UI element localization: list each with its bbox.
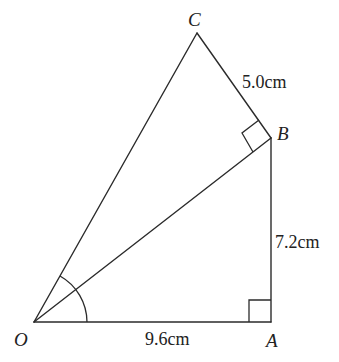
length-label-oa: 9.6cm [145, 329, 190, 349]
segment-oc [34, 33, 197, 322]
geometry-diagram: C B O A 5.0cm 7.2cm 9.6cm [0, 0, 339, 362]
vertex-label-c: C [188, 9, 201, 30]
right-angle-marker-a [249, 300, 271, 322]
length-label-bc: 5.0cm [242, 72, 287, 92]
vertex-label-a: A [264, 330, 278, 351]
vertex-label-b: B [277, 123, 289, 144]
right-angle-marker-b [242, 120, 259, 152]
length-label-ab: 7.2cm [275, 232, 320, 252]
segment-ob [34, 138, 271, 322]
vertex-label-o: O [14, 329, 28, 350]
